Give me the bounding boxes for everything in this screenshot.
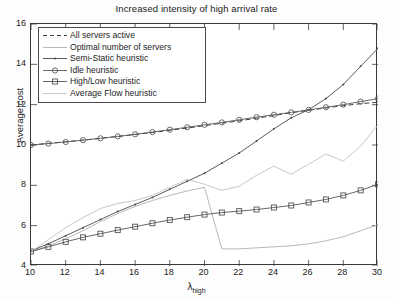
- legend-swatch-idle-heuristic: [42, 65, 68, 76]
- x-axis-tick-label: 16: [121, 267, 147, 277]
- x-axis-tick-label: 22: [225, 267, 251, 277]
- x-axis-tick-label: 28: [329, 267, 355, 277]
- legend-label-all-servers-active: All servers active: [68, 30, 135, 41]
- y-axis-tick-label: 16: [0, 18, 26, 28]
- series-idle-heuristic: [31, 96, 378, 148]
- page-title: Increased intensity of high arrival rate: [0, 3, 393, 14]
- x-axis-tick-label: 30: [364, 267, 390, 277]
- legend-label-optimal-number-of-servers: Optimal number of servers: [68, 42, 171, 53]
- x-axis-tick-label: 24: [260, 267, 286, 277]
- y-axis-tick-label: 12: [0, 99, 26, 109]
- legend-swatch-all-servers-active: [42, 30, 68, 41]
- legend-label-idle-heuristic: Idle heuristic: [68, 65, 118, 76]
- y-axis-tick-label: 6: [0, 220, 26, 230]
- x-axis-label-subscript: high: [192, 287, 205, 294]
- legend-label-average-flow-heuristic: Average Flow heuristic: [68, 88, 157, 99]
- legend-swatch-optimal-number-of-servers: [42, 42, 68, 53]
- series-all-servers-active: [31, 102, 378, 145]
- legend-item-average-flow-heuristic[interactable]: Average Flow heuristic: [42, 88, 202, 100]
- x-axis-label: λhigh: [0, 281, 393, 294]
- x-axis-tick-label: 12: [52, 267, 78, 277]
- legend-swatch-high-low-heuristic: [42, 76, 68, 87]
- legend-item-high-low-heuristic[interactable]: High/Low heuristic: [42, 76, 202, 88]
- x-axis-tick-label: 10: [17, 267, 43, 277]
- x-axis-tick-label: 14: [86, 267, 112, 277]
- x-axis-tick-label: 20: [191, 267, 217, 277]
- legend-item-semi-static-heuristic[interactable]: Semi-Static heuristic: [42, 53, 202, 65]
- legend-item-optimal-number-of-servers[interactable]: Optimal number of servers: [42, 42, 202, 54]
- x-axis-tick-label: 18: [156, 267, 182, 277]
- y-axis-tick-label: 8: [0, 179, 26, 189]
- legend-item-idle-heuristic[interactable]: Idle heuristic: [42, 65, 202, 77]
- legend-swatch-semi-static-heuristic: [42, 53, 68, 64]
- legend-label-semi-static-heuristic: Semi-Static heuristic: [68, 53, 148, 64]
- legend: All servers activeOptimal number of serv…: [38, 27, 206, 103]
- chart-figure: Increased intensity of high arrival rate…: [0, 0, 393, 301]
- y-axis-tick-label: 10: [0, 139, 26, 149]
- x-axis-tick-label: 26: [295, 267, 321, 277]
- y-axis-tick-label: 14: [0, 58, 26, 68]
- legend-label-high-low-heuristic: High/Low heuristic: [68, 76, 140, 87]
- legend-item-all-servers-active[interactable]: All servers active: [42, 30, 202, 42]
- legend-swatch-average-flow-heuristic: [42, 88, 68, 99]
